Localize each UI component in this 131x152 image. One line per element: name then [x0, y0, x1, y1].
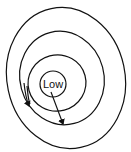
low-label: Low [43, 78, 63, 90]
low-pressure-diagram: Low [0, 0, 131, 152]
